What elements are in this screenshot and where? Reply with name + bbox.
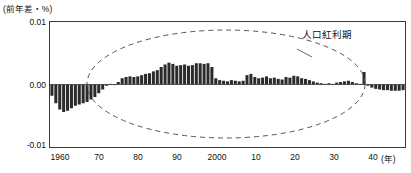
annotation-leader-line <box>297 49 312 57</box>
bar <box>50 85 53 96</box>
y-tick-label-bottom: -0.01 <box>27 140 46 150</box>
bar <box>183 65 186 85</box>
bar <box>93 85 96 98</box>
bar <box>128 76 131 84</box>
bar <box>226 81 229 84</box>
plot-frame <box>49 21 406 148</box>
bar <box>54 85 57 104</box>
bar <box>214 78 217 84</box>
bar <box>230 80 233 84</box>
bar <box>285 77 288 85</box>
bar <box>370 85 373 88</box>
bar <box>218 80 221 84</box>
y-axis-tick-labels: 0.01 0.00 -0.01 <box>0 0 46 173</box>
bar <box>66 85 69 111</box>
x-tick-label-70: 70 <box>94 152 103 162</box>
bar <box>164 65 167 85</box>
bar <box>242 81 245 85</box>
bar <box>210 67 213 85</box>
bar <box>390 85 393 91</box>
bar <box>132 77 135 85</box>
x-axis-unit-label: (年) <box>381 152 396 164</box>
x-tick-label-2000: 2000 <box>208 152 227 162</box>
bar <box>234 81 237 85</box>
x-tick-label-10: 10 <box>251 152 260 162</box>
bar <box>292 76 295 85</box>
x-tick-label-80: 80 <box>133 152 142 162</box>
bar <box>195 63 198 84</box>
chart-figure: (前年差・%) 0.01 0.00 -0.01 人口紅利期 1960 70 80… <box>0 0 411 173</box>
bar <box>343 81 346 84</box>
bar <box>281 80 284 85</box>
bar <box>277 79 280 85</box>
bar <box>144 74 147 85</box>
bar <box>156 70 159 84</box>
bar <box>171 64 174 85</box>
bar <box>398 85 401 91</box>
bar <box>74 85 77 106</box>
bar <box>82 85 85 104</box>
x-tick-label-20: 20 <box>290 152 299 162</box>
bar <box>175 66 178 85</box>
bar <box>179 65 182 84</box>
x-tick-label-90: 90 <box>172 152 181 162</box>
bar <box>374 85 377 89</box>
bar <box>78 85 81 105</box>
bar <box>273 78 276 85</box>
annotation-label-demographic-dividend: 人口紅利期 <box>302 27 352 41</box>
bar <box>101 85 104 90</box>
bar <box>97 85 100 94</box>
x-tick-label-30: 30 <box>329 152 338 162</box>
bar <box>382 85 385 91</box>
bar <box>312 81 315 84</box>
bar <box>121 78 124 84</box>
bar <box>140 75 143 84</box>
bar <box>347 81 350 85</box>
bar <box>167 63 170 85</box>
bar <box>378 85 381 90</box>
bar <box>70 85 73 109</box>
bar <box>222 81 225 85</box>
bar <box>257 78 260 84</box>
y-tick-label-top: 0.01 <box>29 17 46 27</box>
bar <box>253 77 256 85</box>
x-tick-label-1960: 1960 <box>51 152 70 162</box>
bar <box>288 78 291 85</box>
bar <box>148 73 151 84</box>
bar <box>300 78 303 84</box>
bar <box>199 63 202 84</box>
bar <box>249 74 252 85</box>
bar <box>86 85 89 103</box>
bar <box>160 67 163 85</box>
bar <box>296 76 299 84</box>
bar <box>386 85 389 91</box>
bar <box>261 78 264 85</box>
bar <box>394 85 397 91</box>
bar <box>304 79 307 85</box>
bars-group <box>50 63 404 112</box>
bar <box>89 85 92 100</box>
bar <box>191 65 194 84</box>
bar <box>152 71 155 84</box>
bar <box>136 76 139 84</box>
bar <box>203 64 206 85</box>
bar <box>58 85 61 110</box>
bar <box>238 81 241 84</box>
bar <box>308 80 311 84</box>
y-tick-label-zero: 0.00 <box>29 80 46 90</box>
bar <box>187 66 190 85</box>
bar <box>265 76 268 84</box>
bar <box>125 77 128 85</box>
x-tick-label-40: 40 <box>368 152 377 162</box>
bar <box>402 85 405 91</box>
bar <box>206 63 209 84</box>
bar <box>269 78 272 84</box>
bar <box>62 85 65 113</box>
bar <box>245 75 248 84</box>
